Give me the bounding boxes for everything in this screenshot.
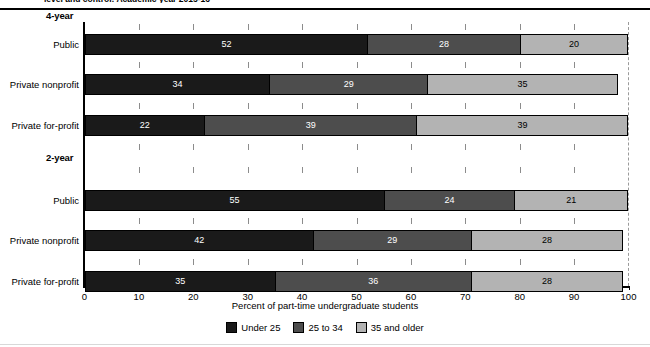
gap-tick [357,24,358,30]
gap-tick [302,218,303,224]
bar-segment: 28 [471,230,623,251]
gap-tick [465,103,466,109]
gap-tick [248,259,249,265]
gap-tick [139,24,140,30]
gap-tick [248,218,249,224]
gap-tick [193,259,194,265]
gap-tick [520,62,521,68]
bar-value-label: 36 [368,277,378,286]
group-header-2-year: 2-year [46,152,73,163]
gap-tick [520,24,521,30]
bar-segment: 52 [85,34,368,55]
bar-value-label: 28 [542,236,552,245]
gap-tick [302,144,303,150]
gap-tick [411,62,412,68]
gap-tick [465,218,466,224]
bar-value-label: 39 [306,121,316,130]
bar-segment: 21 [514,190,628,211]
gap-tick [465,259,466,265]
bar-value-label: 24 [444,196,454,205]
legend-item[interactable]: 35 and older [356,322,424,333]
gap-tick [248,167,249,173]
gap-tick [411,144,412,150]
gap-tick [139,259,140,265]
gap-tick [302,24,303,30]
gap-tick [465,62,466,68]
gap-tick [193,218,194,224]
chart-legend: Under 2525 to 3435 and older [0,322,650,333]
gap-tick [302,103,303,109]
gap-tick [357,103,358,109]
gap-tick [574,103,575,109]
bar-segment: 42 [85,230,313,251]
gap-tick [520,259,521,265]
bar-segment: 24 [384,190,515,211]
gap-tick [520,144,521,150]
bar-value-label: 35 [517,80,527,89]
legend-label: Under 25 [241,322,280,333]
bar-value-label: 21 [566,196,576,205]
category-label: Private for-profit [11,276,79,287]
gap-tick [302,259,303,265]
gap-tick [357,62,358,68]
legend-label: 25 to 34 [308,322,342,333]
gap-tick [193,62,194,68]
gap-tick [465,167,466,173]
gap-tick [411,167,412,173]
gap-tick [302,167,303,173]
bar-value-label: 28 [439,40,449,49]
gap-tick [139,218,140,224]
legend-item[interactable]: 25 to 34 [293,322,342,333]
legend-label: 35 and older [371,322,424,333]
category-label: Private nonprofit [10,79,79,90]
gap-tick [574,24,575,30]
gap-tick [574,259,575,265]
bar-segment: 20 [520,34,629,55]
category-label: Private for-profit [11,120,79,131]
category-label: Public [53,39,79,50]
chart-figure: level and control: Academic year 2015-16… [0,0,650,347]
gap-tick [302,62,303,68]
group-header-4-year: 4-year [46,10,73,21]
bar-segment: 36 [275,271,471,292]
gap-tick [574,218,575,224]
bar-segment: 28 [471,271,623,292]
gap-tick [139,144,140,150]
gap-tick [193,24,194,30]
gap-tick [193,144,194,150]
bar-value-label: 28 [542,277,552,286]
top-rule [0,8,650,10]
gap-tick [139,167,140,173]
bar-segment: 29 [313,230,471,251]
bar-value-label: 29 [344,80,354,89]
category-label: Public [53,195,79,206]
gap-tick [574,167,575,173]
gap-tick [193,167,194,173]
gap-tick [465,144,466,150]
axis-right-dashed-line [628,22,629,286]
gap-tick [411,24,412,30]
legend-swatch-icon [226,322,237,333]
bar-value-label: 39 [517,121,527,130]
gap-tick [248,103,249,109]
gap-tick [520,218,521,224]
legend-item[interactable]: Under 25 [226,322,280,333]
bar-segment: 35 [427,74,617,95]
bar-segment: 55 [85,190,384,211]
gap-tick [357,218,358,224]
clipped-caption-text: level and control: Academic year 2015-16 [44,0,604,3]
gap-tick [357,167,358,173]
category-label: Private nonprofit [10,235,79,246]
gap-tick [574,62,575,68]
gap-tick [465,24,466,30]
bar-segment: 22 [85,115,205,136]
gap-tick [248,62,249,68]
gap-tick [139,62,140,68]
gap-tick [574,144,575,150]
bar-segment: 28 [367,34,519,55]
bar-segment: 39 [416,115,628,136]
bar-segment: 29 [269,74,427,95]
gap-tick [411,218,412,224]
bar-value-label: 35 [175,277,185,286]
gap-tick [411,103,412,109]
